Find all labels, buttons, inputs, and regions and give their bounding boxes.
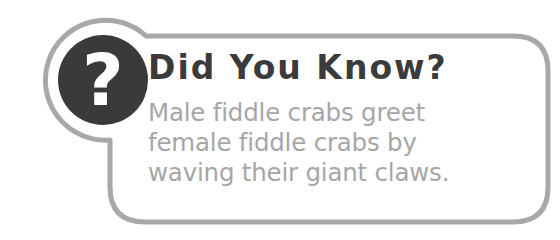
callout-body: Male fiddle crabs greet female fiddle cr… <box>148 98 528 188</box>
body-line: Male fiddle crabs greet <box>148 98 528 128</box>
question-mark-icon: ? <box>58 35 148 125</box>
body-line: female fiddle crabs by <box>148 128 528 158</box>
body-line: waving their giant claws. <box>148 158 528 188</box>
callout-title: Did You Know? <box>148 48 448 87</box>
